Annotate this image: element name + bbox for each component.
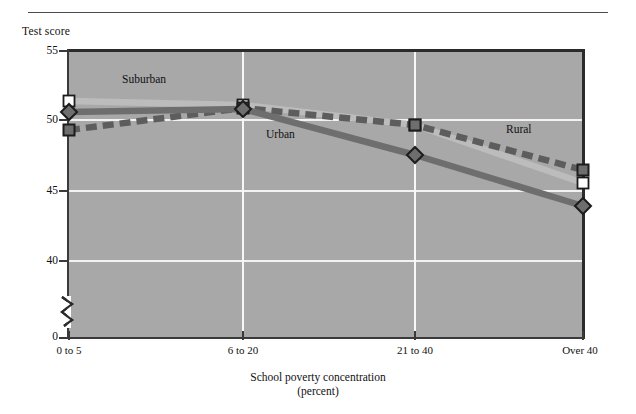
figure-container: Test score 55 50 45 40 0 0 to 5 6 to 20 … xyxy=(0,0,636,414)
x-axis-title-line2: (percent) xyxy=(0,384,636,398)
series-label-urban: Urban xyxy=(266,128,295,140)
series-label-rural: Rural xyxy=(506,123,532,135)
chart-series-layer xyxy=(0,0,636,414)
series-line-rural xyxy=(69,108,583,170)
x-axis-title: School poverty concentration (percent) xyxy=(0,370,636,398)
series-label-suburban: Suburban xyxy=(122,73,166,85)
x-axis-title-line1: School poverty concentration xyxy=(0,370,636,384)
